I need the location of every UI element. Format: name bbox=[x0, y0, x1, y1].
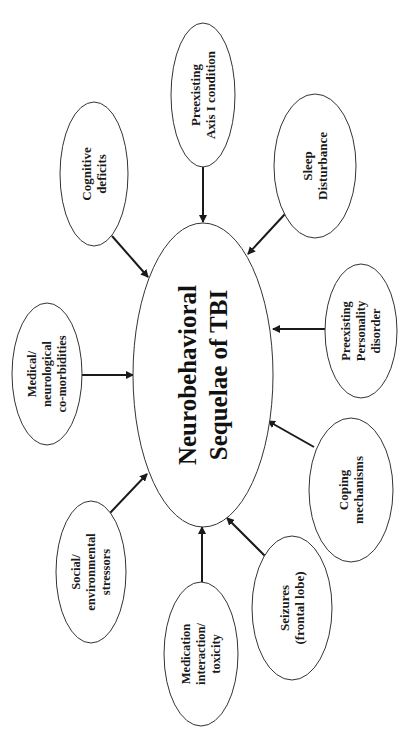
node-preexisting-personality: PreexistingPersonalitydisorder bbox=[325, 264, 397, 398]
tbi-diagram: PreexistingAxis I conditionSleepDisturba… bbox=[0, 0, 405, 741]
center-ellipse bbox=[133, 223, 273, 527]
node-social-environmental: Social/environmentalstressors bbox=[56, 501, 126, 643]
node-medication: Medicationinteraction/toxicity bbox=[164, 582, 238, 726]
arrow-cognitive-deficits bbox=[112, 236, 148, 277]
node-label-line: toxicity bbox=[209, 633, 223, 673]
node-label-line: stressors bbox=[99, 549, 113, 595]
node-label-line: co-morbidities bbox=[55, 335, 69, 412]
node-label-line: neurological bbox=[40, 341, 54, 407]
arrow-coping-mechanisms bbox=[268, 421, 314, 447]
node-label-line: mechanisms bbox=[351, 456, 366, 524]
node-label-line: Social/ bbox=[69, 554, 83, 590]
node-label-line: Axis I condition bbox=[203, 50, 218, 139]
node-label-line: (frontal lobe) bbox=[292, 571, 307, 644]
arrow-sleep-disturbance bbox=[248, 214, 285, 254]
node-medical-neurological: Medical/neurologicalco-morbidities bbox=[12, 303, 82, 445]
center-node: NeurobehavioralSequelae of TBI bbox=[133, 223, 273, 527]
node-label-line: Sleep bbox=[300, 151, 315, 181]
node-label-line: Medication bbox=[179, 624, 193, 684]
node-label-line: environmental bbox=[84, 533, 98, 611]
node-preexisting-axis-i: PreexistingAxis I condition bbox=[171, 23, 235, 167]
node-cognitive-deficits: Cognitivedeficits bbox=[60, 102, 128, 246]
node-label-line: interaction/ bbox=[194, 623, 208, 685]
node-label-line: Disturbance bbox=[315, 132, 330, 200]
node-label-line: Cognitive bbox=[79, 147, 94, 201]
node-label-line: Sequelae of TBI bbox=[205, 290, 232, 460]
node-label-line: disorder bbox=[369, 308, 383, 354]
node-label-line: Preexisting bbox=[339, 301, 353, 361]
node-seizures: Seizures(frontal lobe) bbox=[252, 536, 332, 680]
node-label-line: Neurobehavioral bbox=[174, 285, 201, 465]
node-coping-mechanisms: Copingmechanisms bbox=[309, 418, 393, 562]
node-label-line: Coping bbox=[336, 469, 351, 510]
node-sleep-disturbance: SleepDisturbance bbox=[274, 94, 356, 238]
node-label-line: deficits bbox=[94, 154, 109, 194]
node-label-line: Preexisting bbox=[188, 64, 203, 126]
arrow-seizures bbox=[227, 518, 265, 556]
node-label-line: Seizures bbox=[277, 585, 292, 631]
node-label-line: Medical/ bbox=[25, 350, 39, 397]
node-label-line: Personality bbox=[354, 300, 368, 361]
arrow-social-environmental bbox=[110, 474, 147, 513]
